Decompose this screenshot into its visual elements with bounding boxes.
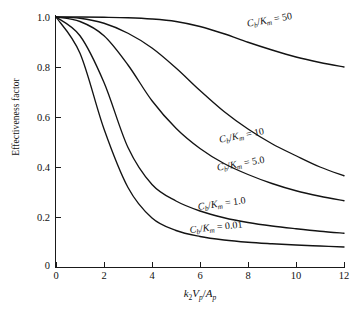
- effectiveness-factor-chart: 1.0 0.8 0.6 0.4 0.2 0 0 2 4 6 8 10 12 Ef…: [0, 0, 364, 311]
- curve-cb-km-10: [56, 17, 344, 176]
- label-50-K-sub: m: [266, 19, 273, 28]
- curve-cb-km-001: [56, 17, 344, 247]
- curve-group: [0, 0, 364, 311]
- label-10-K-sub: m: [238, 134, 245, 143]
- label-001-K-sub: m: [209, 226, 215, 235]
- label-5-K-sub: m: [236, 163, 243, 172]
- curve-cb-km-5: [56, 17, 344, 201]
- curve-cb-km-50: [56, 17, 344, 67]
- label-1-K-sub: m: [217, 202, 223, 211]
